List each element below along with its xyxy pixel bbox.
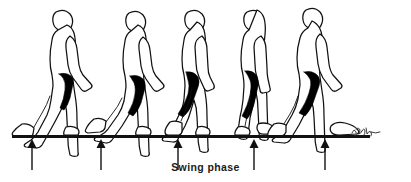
gait-illustration: Swing phase — [0, 0, 411, 182]
foot-rear-2 — [136, 126, 151, 135]
foot-front-4 — [235, 126, 250, 135]
gait-sequence-drawing — [0, 0, 411, 182]
caption-swing-phase: Swing phase — [0, 161, 411, 173]
foot-rear-3 — [196, 126, 210, 135]
foot-rear-1 — [64, 126, 79, 135]
